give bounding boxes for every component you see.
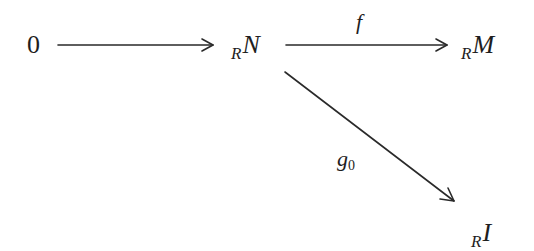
node-RM-text: M [472,30,494,59]
node-RM-subscript: R [461,44,471,63]
node-RN: RN [231,32,260,58]
node-RN-subscript: R [231,44,241,63]
node-RM: RM [461,32,494,58]
node-RN-text: N [242,30,259,59]
arrow-g0 [285,72,454,201]
edge-label-f-text: f [356,9,362,34]
diagram-arrows [0,0,534,251]
edge-label-g0-main: g [337,146,348,171]
node-RI-text: I [482,218,491,247]
edge-label-g0: g0 [337,148,355,170]
node-RI-subscript: R [471,232,481,251]
edge-label-f: f [356,11,362,33]
edge-label-g0-sub: 0 [348,158,355,173]
node-RI: RI [471,220,491,246]
node-zero: 0 [27,32,40,58]
node-zero-text: 0 [27,30,40,59]
